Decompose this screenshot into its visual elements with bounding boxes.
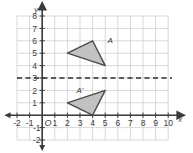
triangle-a-prime-label: A' (76, 86, 84, 95)
triangle-a-prime (67, 90, 105, 115)
x-tick-label-9: 9 (153, 118, 158, 128)
y-tick-label-5: 5 (32, 48, 37, 58)
y-axis-label: y (33, 5, 39, 14)
y-tick-label-3: 3 (32, 73, 37, 83)
triangle-a-label: A (107, 36, 113, 45)
x-tick-label-10: 10 (163, 118, 173, 128)
x-tick-label-5: 5 (103, 118, 108, 128)
y-tick-label-neg1: -1 (33, 123, 41, 133)
coordinate-plane: 8 7 6 5 4 3 2 1 -1 -2 -2 -1 1 2 3 4 5 6 … (0, 0, 193, 153)
x-axis-left-arrowhead (5, 112, 11, 118)
y-axis-bottom-arrowhead (39, 145, 45, 151)
x-tick-label-2: 2 (65, 118, 70, 128)
x-tick-label-3: 3 (78, 118, 83, 128)
x-tick-label-neg1: -1 (26, 118, 34, 128)
y-tick-label-7: 7 (32, 24, 37, 34)
y-tick-label-6: 6 (32, 36, 37, 46)
origin-label: O (45, 118, 52, 128)
x-tick-label-8: 8 (141, 118, 146, 128)
axes (5, 9, 179, 151)
x-tick-label-6: 6 (115, 118, 120, 128)
y-tick-label-2: 2 (32, 86, 37, 96)
triangle-a (67, 41, 105, 66)
y-tick-label-1: 1 (32, 98, 37, 108)
x-tick-label-neg2: -2 (13, 118, 21, 128)
x-tick-label-4: 4 (90, 118, 95, 128)
x-axis-label: x (177, 115, 182, 124)
y-tick-label-neg2: -2 (33, 135, 41, 145)
x-tick-label-7: 7 (128, 118, 133, 128)
y-tick-label-4: 4 (32, 61, 37, 71)
x-tick-label-1: 1 (52, 118, 57, 128)
coordinate-graph-figure: 8 7 6 5 4 3 2 1 -1 -2 -2 -1 1 2 3 4 5 6 … (0, 0, 193, 153)
